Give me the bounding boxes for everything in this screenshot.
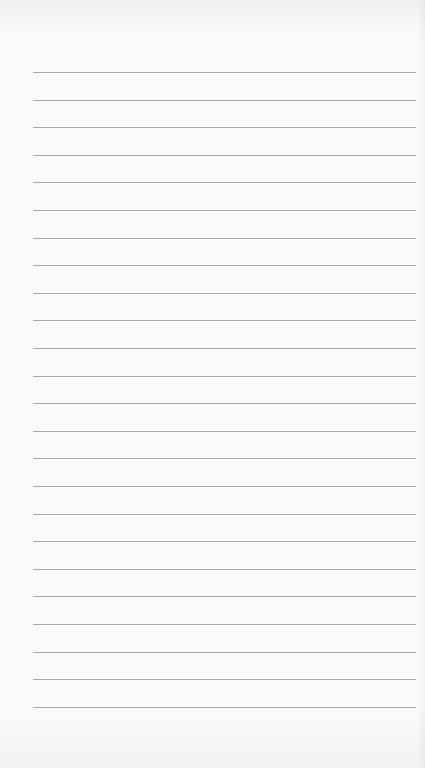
ruled-line xyxy=(33,458,416,459)
ruled-line xyxy=(33,514,416,515)
ruled-line xyxy=(33,127,416,128)
ruled-line xyxy=(33,293,416,294)
ruled-line xyxy=(33,320,416,321)
ruled-line xyxy=(33,624,416,625)
ruled-line xyxy=(33,155,416,156)
ruled-line xyxy=(33,652,416,653)
ruled-line xyxy=(33,403,416,404)
ruled-line xyxy=(33,569,416,570)
ruled-line xyxy=(33,431,416,432)
ruled-line xyxy=(33,265,416,266)
ruled-line xyxy=(33,210,416,211)
ruled-line xyxy=(33,679,416,680)
ruled-line xyxy=(33,182,416,183)
ruled-line xyxy=(33,72,416,73)
ruled-line xyxy=(33,100,416,101)
ruled-line xyxy=(33,541,416,542)
ruled-line xyxy=(33,596,416,597)
ruled-line xyxy=(33,707,416,708)
ruled-line xyxy=(33,348,416,349)
ruled-line xyxy=(33,376,416,377)
ruled-line xyxy=(33,486,416,487)
ruled-line xyxy=(33,238,416,239)
ruled-lines-area xyxy=(0,0,425,768)
